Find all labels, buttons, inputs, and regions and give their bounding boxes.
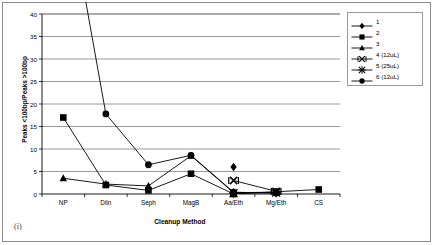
legend-marker-star-asterisk-icon bbox=[350, 61, 374, 71]
series-6-12ul--marker-Seph bbox=[145, 161, 152, 168]
series-lines-group bbox=[63, 2, 318, 194]
series-4-12ul--marker-Aa/Eth bbox=[229, 177, 239, 184]
y-tick-label-25: 25 bbox=[15, 78, 37, 85]
y-tick-label-15: 15 bbox=[15, 123, 37, 130]
legend-marker-circle-filled-icon bbox=[350, 72, 374, 82]
series-6-12ul--marker-Aa/Eth bbox=[230, 189, 237, 196]
series-2-segment-5 bbox=[276, 190, 319, 192]
y-tick-label-40: 40 bbox=[15, 11, 37, 18]
legend-label: 3 bbox=[374, 40, 379, 47]
chart-legend: 1234 (12uL)5 (25uL)6 (12uL) bbox=[347, 12, 423, 86]
y-tick-label-5: 5 bbox=[15, 168, 37, 175]
legend-marker-triangle-filled-icon bbox=[350, 39, 374, 49]
legend-label: 5 (25uL) bbox=[374, 62, 399, 69]
series-2-marker-CS bbox=[315, 186, 322, 193]
legend-marker-diamond-filled-icon bbox=[350, 17, 374, 27]
series-2-segment-3 bbox=[191, 174, 234, 194]
legend-entry-2[interactable]: 2 bbox=[350, 27, 420, 38]
y-tick-label-30: 30 bbox=[15, 56, 37, 63]
series-3-segment-0 bbox=[63, 178, 106, 184]
legend-label: 1 bbox=[374, 18, 379, 25]
y-tick-label-10: 10 bbox=[15, 146, 37, 153]
legend-marker-square-filled-icon bbox=[350, 28, 374, 38]
x-tick-label-cs: CS bbox=[289, 199, 349, 206]
series-markers-group bbox=[60, 111, 322, 198]
series-1-marker-Aa/Eth bbox=[230, 163, 236, 171]
y-axis-title: Peaks <100bp/Peaks >100bp bbox=[21, 20, 28, 180]
y-tick-label-35: 35 bbox=[15, 33, 37, 40]
series-6-12ul-overshoot bbox=[86, 2, 106, 114]
legend-label: 4 (12uL) bbox=[374, 51, 399, 58]
series-4-12ul--segment-0 bbox=[234, 181, 277, 192]
legend-marker-x-cross-icon bbox=[350, 50, 374, 60]
series-3-marker-NP bbox=[60, 174, 67, 181]
legend-label: 2 bbox=[374, 29, 379, 36]
legend-entry-5-25ul-[interactable]: 5 (25uL) bbox=[350, 60, 420, 71]
series-6-12ul--segment-0 bbox=[106, 114, 149, 165]
series-2-marker-NP bbox=[60, 114, 67, 121]
series-6-12ul--marker-MagB bbox=[188, 152, 195, 159]
series-6-12ul--segment-2 bbox=[191, 155, 234, 192]
y-tick-label-0: 0 bbox=[15, 191, 37, 198]
gridlines-group bbox=[42, 14, 340, 172]
legend-entry-6-12ul-[interactable]: 6 (12uL) bbox=[350, 71, 420, 82]
series-6-12ul--marker-Mg/Eth bbox=[273, 190, 280, 197]
legend-entry-1[interactable]: 1 bbox=[350, 16, 420, 27]
series-2-marker-MagB bbox=[188, 170, 195, 177]
series-2-segment-2 bbox=[148, 174, 191, 191]
legend-label: 6 (12uL) bbox=[374, 73, 399, 80]
legend-glyph-5 bbox=[359, 78, 364, 83]
figure-container: Peaks <100bp/Peaks >100bp Cleanup Method… bbox=[0, 0, 434, 245]
y-tick-label-20: 20 bbox=[15, 101, 37, 108]
legend-entry-4-12ul-[interactable]: 4 (12uL) bbox=[350, 49, 420, 60]
series-6-12ul--marker-Diln bbox=[102, 111, 109, 118]
figure-caption: (i) bbox=[14, 222, 22, 231]
x-axis-title: Cleanup Method bbox=[30, 218, 330, 225]
series-2-segment-0 bbox=[63, 118, 106, 186]
legend-entry-3[interactable]: 3 bbox=[350, 38, 420, 49]
